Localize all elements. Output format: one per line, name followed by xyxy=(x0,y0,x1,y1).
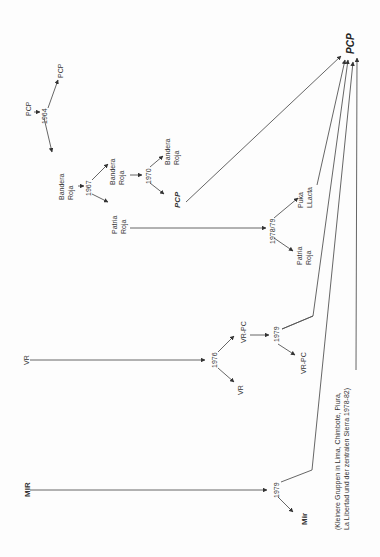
node-mir-origin: MIR xyxy=(23,482,32,497)
edge-kleinere-gruppen-final xyxy=(356,58,357,370)
node-bandera-roja-1: Bandera Roja xyxy=(58,172,75,200)
edge-1964-pcp xyxy=(48,80,58,108)
node-label-line: Roja xyxy=(67,185,75,200)
edge-1967-bandera-roja xyxy=(92,164,108,180)
edge-1979-mir xyxy=(278,497,293,512)
node-label-line: LLacta xyxy=(306,187,313,208)
node-label-line: Roja xyxy=(120,219,128,234)
node-label-line: Bandera xyxy=(58,173,65,200)
party-lineage-diagram: PCP 1964 PCP Bandera Roja 1967 Bandera R… xyxy=(0,0,380,557)
node-bandera-roja-2: Bandera Roja xyxy=(109,157,126,185)
node-year-1978-79: 1978/79 xyxy=(269,219,276,244)
node-pcp-final: PCP xyxy=(345,33,356,54)
edge-vr-pc-final xyxy=(282,60,348,329)
node-year-1970: 1970 xyxy=(145,168,152,184)
edge-1978-puka-llacta xyxy=(274,198,298,218)
node-label-line: Bandera xyxy=(109,158,116,185)
node-label-line: Roja xyxy=(118,170,126,185)
node-vr-pc-1: VR-PC xyxy=(240,321,247,343)
edge-1976-vr-pc xyxy=(218,336,234,352)
node-label-line: Roja xyxy=(173,150,181,165)
node-mir-1979: Mir xyxy=(300,513,309,525)
edge-1976-vr xyxy=(218,368,234,382)
node-year-1976: 1976 xyxy=(211,352,218,368)
node-label-line: Puka xyxy=(297,192,304,208)
node-patria-roja-2: Patria Roja xyxy=(296,245,313,265)
note-line: (Kleinere Gruppen in Lima, Chimbote, Piu… xyxy=(334,392,342,530)
edge-1978-patria-roja xyxy=(274,238,293,251)
note-line: La Libertad und der zentralen Sierra 197… xyxy=(343,388,351,530)
node-year-1979-mir: 1979 xyxy=(273,482,280,498)
node-label-line: Patria xyxy=(296,247,303,265)
diagram-canvas: PCP 1964 PCP Bandera Roja 1967 Bandera R… xyxy=(0,0,380,557)
edge-puka-llacta-final xyxy=(317,60,345,185)
node-label-line: Roja xyxy=(305,250,313,265)
node-pcp-1964: PCP xyxy=(57,63,64,78)
node-bandera-roja-3: Bandera Roja xyxy=(164,137,181,165)
node-kleinere-gruppen-note: (Kleinere Gruppen in Lima, Chimbote, Piu… xyxy=(334,388,351,530)
edge-1967-patria-roja xyxy=(92,194,108,202)
node-pcp-1970: PCP xyxy=(173,191,182,208)
edge-1970-bandera-roja xyxy=(150,156,163,167)
node-vr-1976: VR xyxy=(237,385,244,395)
node-vr-pc-2: VR-PC xyxy=(300,352,307,374)
node-pcp-origin: PCP xyxy=(25,101,32,116)
node-label-line: Bandera xyxy=(164,138,171,165)
edge-1979-vr-pc xyxy=(278,344,295,355)
node-label-line: Patria xyxy=(111,216,118,234)
node-year-1979-vr: 1979 xyxy=(273,326,280,342)
node-patria-roja-1: Patria Roja xyxy=(111,214,128,234)
node-year-1964: 1964 xyxy=(41,108,48,124)
node-puka-llacta: Puka LLacta xyxy=(297,187,313,208)
node-vr-origin: VR xyxy=(23,355,30,365)
edge-1970-pcp xyxy=(150,183,164,194)
node-year-1967: 1967 xyxy=(85,180,92,196)
